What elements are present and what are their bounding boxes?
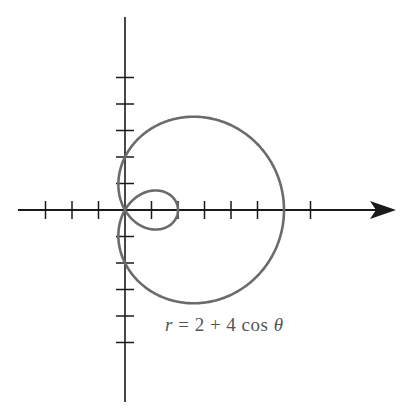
equation-theta: θ (274, 314, 284, 335)
equation-plus: + (210, 314, 221, 335)
polar-plot (0, 0, 406, 414)
equation-equals: = (178, 314, 189, 335)
equation-a: 2 (195, 314, 205, 335)
equation-b: 4 cos (226, 314, 268, 335)
equation-label: r = 2 + 4 cos θ (165, 314, 284, 336)
equation-r: r (165, 314, 173, 335)
